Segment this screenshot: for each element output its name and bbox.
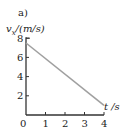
y-tick-label: 4 [17,71,23,82]
data-series [26,43,104,105]
y-tick-label: 6 [17,52,23,63]
x-tick-label: 4 [101,118,107,129]
chart-plot: 012342468 [0,0,124,134]
velocity-line [26,43,104,105]
x-tick-label: 2 [62,118,68,129]
x-tick-label: 3 [82,118,88,129]
x-tick-label: 1 [43,118,49,129]
x-tick-label: 0 [20,118,26,129]
y-tick-label: 8 [17,33,23,44]
y-tick-label: 2 [17,90,23,101]
